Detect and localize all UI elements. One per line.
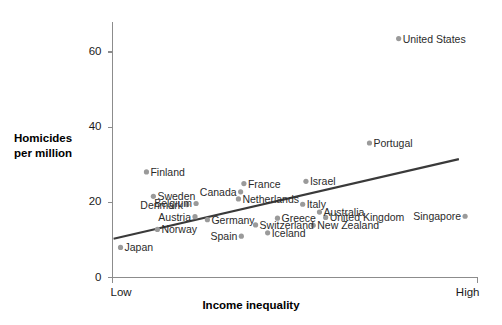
data-point-label: Portugal xyxy=(373,138,412,149)
scatter-chart: Homicides per million Income inequality … xyxy=(0,0,502,325)
x-axis-title: Income inequality xyxy=(0,299,502,311)
data-point xyxy=(239,234,244,239)
y-tick-label: 60 xyxy=(68,46,102,58)
data-point-label: Spain xyxy=(210,231,237,242)
x-tick-label: High xyxy=(456,287,480,299)
data-point-label: Denmark xyxy=(140,199,183,210)
y-tick-label: 20 xyxy=(68,196,102,208)
data-point xyxy=(192,214,197,219)
data-point-label: New Zealand xyxy=(317,220,379,231)
data-point-label: United States xyxy=(403,33,466,44)
data-point-label: Finland xyxy=(150,167,184,178)
data-point-label: Austria xyxy=(158,211,191,222)
data-point xyxy=(462,214,467,219)
data-point xyxy=(396,36,401,41)
data-point xyxy=(265,230,270,235)
data-point-label: France xyxy=(248,178,281,189)
axes-group xyxy=(108,22,478,283)
data-point xyxy=(118,245,123,250)
data-point-label: Japan xyxy=(125,242,154,253)
x-tick-label: Low xyxy=(111,287,132,299)
data-point-label: Canada xyxy=(200,187,237,198)
y-tick-label: 0 xyxy=(68,272,102,284)
data-point-label: Norway xyxy=(161,224,197,235)
y-axis-title: Homicides per million xyxy=(14,131,98,161)
y-axis-title-line1: Homicides xyxy=(14,131,98,146)
data-point-label: Netherlands xyxy=(242,194,299,205)
data-point-label: Singapore xyxy=(413,211,461,222)
data-point-label: Israel xyxy=(310,176,336,187)
data-point xyxy=(155,227,160,232)
data-point xyxy=(303,179,308,184)
data-point xyxy=(317,210,322,215)
data-point xyxy=(144,169,149,174)
y-axis-title-line2: per million xyxy=(14,146,98,161)
data-point xyxy=(241,181,246,186)
data-point xyxy=(367,140,372,145)
y-tick-label: 40 xyxy=(68,121,102,133)
data-point-label: Germany xyxy=(211,214,254,225)
data-point xyxy=(300,202,305,207)
data-point-label: Iceland xyxy=(272,228,306,239)
data-point xyxy=(205,217,210,222)
